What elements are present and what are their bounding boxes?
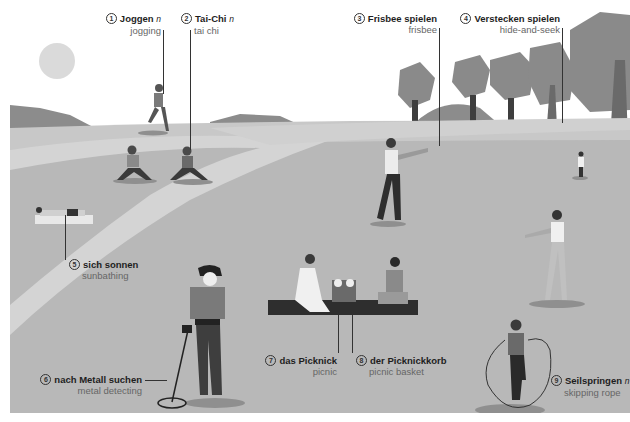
park-illustration [10,0,630,413]
english-term: picnic basket [356,366,447,377]
leader-line-7 [338,315,339,353]
label-jogging: 1Joggen n jogging [100,13,161,36]
leader-line-1 [163,30,164,94]
label-tai-chi: 2Tai-Chi n tai chi [181,13,234,36]
label-hide-and-seek: 4Verstecken spielen hide-and-seek [455,13,560,35]
german-term: sich sonnen [83,259,138,270]
leader-line-5 [65,215,66,260]
german-term: der Picknickkorb [370,355,447,366]
leader-line-3 [439,28,440,146]
english-term: skipping rope [551,387,629,398]
german-term: Seilspringen [565,375,622,386]
label-skipping-rope: 9Seilspringen n skipping rope [551,375,629,398]
english-term: frisbee [350,24,437,35]
english-term: jogging [100,25,161,36]
leader-line-2 [190,30,191,150]
leader-line-6 [145,380,167,381]
german-term: Tai-Chi [195,13,227,24]
sun-icon [39,43,75,79]
english-term: hide-and-seek [455,24,560,35]
english-term: picnic [265,366,337,377]
german-term: Frisbee spielen [368,13,437,24]
english-term: sunbathing [69,270,138,281]
park-scene-graphic [10,0,630,413]
label-picnic: 7das Picknick picnic [265,355,337,377]
german-term: Joggen [120,13,154,24]
label-frisbee: 3Frisbee spielen frisbee [350,13,437,35]
german-term: nach Metall suchen [54,374,142,385]
english-term: metal detecting [30,385,142,396]
label-sunbathing: 5sich sonnen sunbathing [69,259,138,281]
german-term: Verstecken spielen [474,13,560,24]
german-term: das Picknick [279,355,337,366]
leader-line-8 [352,315,353,353]
english-term: tai chi [181,25,234,36]
label-picnic-basket: 8der Picknickkorb picnic basket [356,355,447,377]
leader-line-4 [562,28,563,123]
label-metal-detecting: 6nach Metall suchen metal detecting [30,374,142,396]
